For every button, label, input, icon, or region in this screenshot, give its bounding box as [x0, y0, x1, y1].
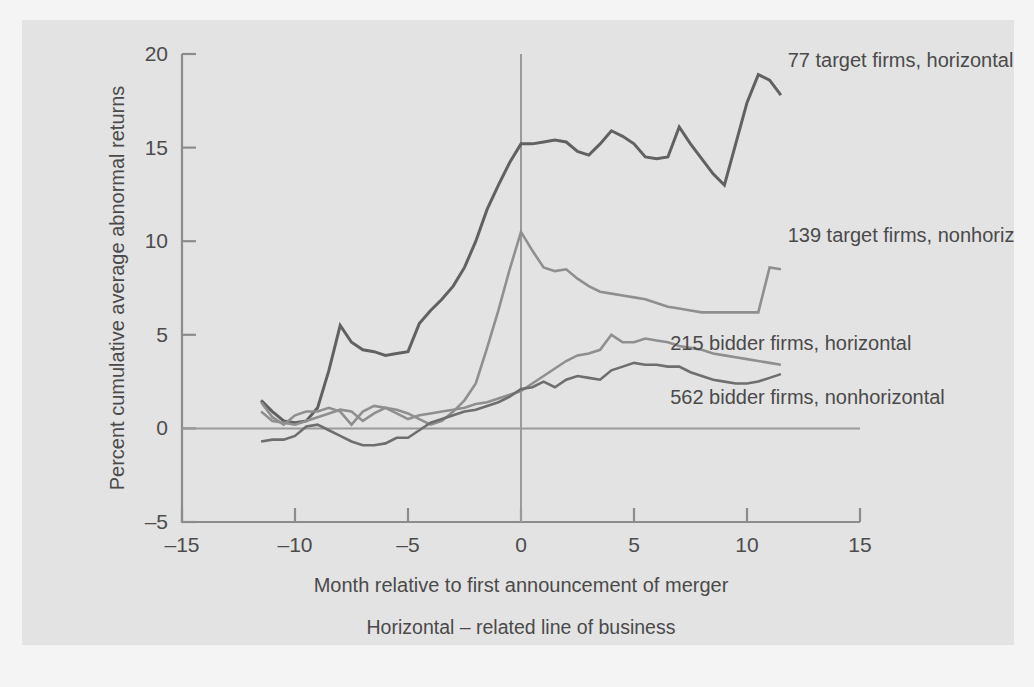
x-tick-label: 10 — [735, 533, 758, 556]
figure-root: –505101520–15–10–505101577 target firms,… — [0, 0, 1034, 687]
y-tick-label: 5 — [156, 323, 168, 346]
x-tick-label: 0 — [515, 533, 527, 556]
y-tick-label: 10 — [145, 229, 168, 252]
x-tick-label: 15 — [848, 533, 871, 556]
y-tick-label: 0 — [156, 416, 168, 439]
y-tick-label: 15 — [145, 136, 168, 159]
series-label-1: 139 target firms, nonhorizontal — [788, 224, 1014, 246]
series-label-0: 77 target firms, horizontal — [788, 49, 1014, 71]
line-chart: –505101520–15–10–505101577 target firms,… — [22, 20, 1014, 645]
y-tick-label: 20 — [145, 42, 168, 65]
footnote-0: Horizontal – related line of business — [367, 616, 676, 638]
x-axis-title: Month relative to first announcement of … — [314, 574, 729, 596]
x-tick-label: –5 — [396, 533, 419, 556]
y-tick-label: –5 — [145, 510, 168, 533]
y-axis-title: Percent cumulative average abnormal retu… — [106, 86, 128, 491]
series-label-3: 562 bidder firms, nonhorizontal — [670, 386, 945, 408]
x-tick-label: –15 — [164, 533, 199, 556]
x-tick-label: 5 — [628, 533, 640, 556]
series-label-2: 215 bidder firms, horizontal — [670, 332, 911, 354]
chart-panel: –505101520–15–10–505101577 target firms,… — [22, 20, 1014, 645]
x-tick-label: –10 — [277, 533, 312, 556]
footnote-1: Nonhorizontal – nonrelated line of busin… — [334, 644, 708, 645]
